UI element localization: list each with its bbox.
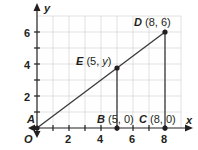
tick-y-6: 6: [24, 27, 30, 39]
tick-x-8: 8: [161, 133, 167, 145]
coordinate-diagram: x y O 2 4 6 8 2 4 6 A B (5, 0) C (8, 0) …: [0, 0, 198, 150]
point-e: [114, 65, 119, 70]
point-b-label: B (5, 0): [97, 113, 134, 125]
x-axis-arrow-left-icon: [28, 125, 35, 132]
point-a: [34, 125, 39, 130]
point-e-open: (5,: [83, 55, 102, 67]
point-c: [162, 125, 167, 130]
tick-y-4: 4: [24, 59, 31, 71]
point-d-coords: (8, 6): [142, 16, 171, 28]
tick-x-2: 2: [65, 133, 71, 145]
point-b: [114, 125, 119, 130]
point-c-label: C (8, 0): [139, 113, 176, 125]
point-a-label: A: [26, 113, 35, 125]
point-d: [162, 29, 167, 34]
tick-x-6: 6: [129, 133, 135, 145]
point-b-letter: B: [97, 113, 105, 125]
point-d-label: D (8, 6): [134, 16, 171, 28]
tick-y-2: 2: [24, 91, 30, 103]
x-axis-label: x: [185, 114, 193, 126]
point-d-letter: D: [134, 16, 142, 28]
y-axis-label: y: [43, 2, 51, 14]
point-b-coords: (5, 0): [105, 113, 134, 125]
origin-label: O: [24, 133, 33, 145]
point-c-coords: (8, 0): [147, 113, 176, 125]
y-axis-arrow-down-icon: [34, 131, 41, 138]
x-axis: [28, 125, 193, 132]
point-e-label: E (5, y): [76, 55, 111, 67]
y-axis-arrow-up-icon: [34, 3, 41, 11]
tick-x-4: 4: [97, 133, 104, 145]
point-e-close: ): [108, 55, 112, 67]
